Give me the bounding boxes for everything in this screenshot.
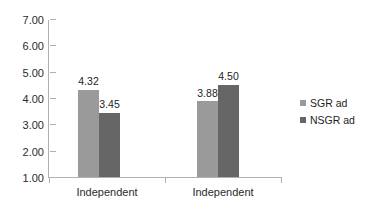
bar-value-group2-nsgr: 4.50 [208, 70, 249, 82]
bar-group2-sgr[interactable] [197, 101, 218, 177]
y-tick-label: 3.00 [23, 119, 44, 131]
bar-group1-nsgr[interactable] [99, 113, 120, 178]
y-tick-label: 4.00 [23, 93, 44, 105]
y-tick-3: 3.00 [0, 119, 56, 131]
legend-label: SGR ad [310, 97, 347, 109]
bar-value-group1-nsgr: 3.45 [89, 98, 130, 110]
y-tick-label: 1.00 [23, 172, 44, 184]
y-tick-label: 2.00 [23, 146, 44, 158]
y-tick-label: 7.00 [23, 14, 44, 26]
x-category-label-2: Independent [165, 186, 281, 199]
plot-area: 4.32 3.45 3.88 4.50 [49, 20, 281, 177]
legend-swatch-icon [300, 117, 306, 123]
y-tick-6: 6.00 [0, 40, 56, 52]
x-tick-mark-mid [165, 177, 166, 183]
legend-label: NSGR ad [310, 114, 355, 126]
x-tick-mark-end [281, 177, 282, 183]
legend-item-nsgr-ad[interactable]: NSGR ad [300, 111, 355, 128]
y-tick-label: 5.00 [23, 67, 44, 79]
x-tick-mark-start [49, 177, 50, 183]
y-tick-label: 6.00 [23, 40, 44, 52]
y-tick-2: 2.00 [0, 146, 56, 158]
y-tick-4: 4.00 [0, 93, 56, 105]
y-tick-7: 7.00 [0, 14, 56, 26]
bar-value-group2-sgr: 3.88 [187, 87, 228, 99]
x-category-label-1: Independent [49, 186, 165, 199]
bar-chart: 7.00 6.00 5.00 4.00 3.00 2.00 1.00 4.32 … [0, 0, 384, 216]
chart-legend: SGR ad NSGR ad [300, 94, 355, 128]
y-tick-5: 5.00 [0, 67, 56, 79]
legend-swatch-icon [300, 100, 306, 106]
y-tick-1: 1.00 [0, 172, 56, 184]
legend-item-sgr-ad[interactable]: SGR ad [300, 94, 355, 111]
bar-value-group1-sgr: 4.32 [68, 75, 109, 87]
